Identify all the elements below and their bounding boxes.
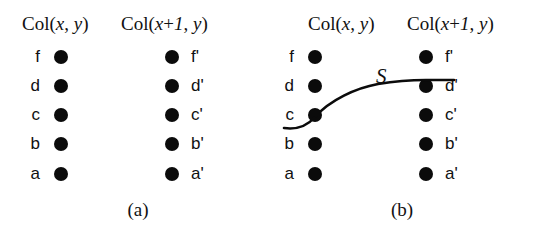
panel-b-row: d d' <box>278 73 518 99</box>
panel-a-right-label: a' <box>191 161 204 187</box>
curve-label-s: S <box>376 66 387 87</box>
panel-a-right-label: b' <box>191 131 204 157</box>
panel-b-row: f f' <box>278 44 518 70</box>
panel-b-row: b b' <box>278 131 518 157</box>
panel-b-right-node-dot <box>419 50 433 64</box>
panel-a-right-label: f' <box>191 44 199 70</box>
panel-a-header-col-x1-y: Col(x+1, y) <box>121 12 208 36</box>
panel-b-right-node-dot <box>419 79 433 93</box>
panel-a-left-node-dot <box>54 167 68 181</box>
panel-a-left-label: f <box>24 44 40 70</box>
panel-a-header-col-x-y: Col(x, y) <box>22 12 88 36</box>
panel-b-left-label: b <box>278 131 294 157</box>
panel-b-right-label: c' <box>445 102 457 128</box>
panel-a-row: b b' <box>18 131 258 157</box>
panel-b-left-label: f <box>278 44 294 70</box>
panel-b-caption: (b) <box>282 198 522 222</box>
panel-b-right-label: d' <box>445 73 458 99</box>
panel-b-row: c c' <box>278 102 518 128</box>
panel-a-right-node-dot <box>165 167 179 181</box>
panel-a-row: c c' <box>18 102 258 128</box>
panel-b-left-label: c <box>278 102 294 128</box>
panel-a-node-rows: f f' d d' c c' b b' <box>18 44 258 194</box>
panel-b: Col(x, y) Col(x+1, y) f f' d d' c c' <box>278 0 518 234</box>
panel-b-right-label: a' <box>445 161 458 187</box>
panel-a-left-node-dot <box>54 137 68 151</box>
panel-b-right-node-dot <box>419 167 433 181</box>
panel-b-row: a a' <box>278 161 518 187</box>
panel-a: Col(x, y) Col(x+1, y) f f' d d' c c' <box>18 0 258 234</box>
panel-b-right-node-dot <box>419 137 433 151</box>
panel-b-left-node-dot <box>308 108 322 122</box>
panel-b-right-node-dot <box>419 108 433 122</box>
panel-b-header-col-x1-y: Col(x+1, y) <box>407 12 494 36</box>
panel-b-left-node-dot <box>308 50 322 64</box>
panel-b-node-rows: f f' d d' c c' b b' <box>278 44 518 194</box>
panel-a-right-node-dot <box>165 79 179 93</box>
panel-b-left-node-dot <box>308 137 322 151</box>
panel-a-left-label: a <box>24 161 40 187</box>
panel-a-left-node-dot <box>54 108 68 122</box>
panel-b-left-node-dot <box>308 79 322 93</box>
panel-b-column-headers: Col(x, y) Col(x+1, y) <box>278 12 518 38</box>
panel-a-left-label: d <box>24 73 40 99</box>
panel-a-row: a a' <box>18 161 258 187</box>
panel-b-header-col-x-y: Col(x, y) <box>308 12 374 36</box>
panel-a-right-label: d' <box>191 73 204 99</box>
panel-b-left-node-dot <box>308 167 322 181</box>
panel-a-right-node-dot <box>165 137 179 151</box>
panel-b-left-label: a <box>278 161 294 187</box>
panel-a-row: f f' <box>18 44 258 70</box>
panel-a-row: d d' <box>18 73 258 99</box>
panel-a-right-node-dot <box>165 50 179 64</box>
panel-a-left-label: c <box>24 102 40 128</box>
panel-b-right-label: b' <box>445 131 458 157</box>
panel-a-left-label: b <box>24 131 40 157</box>
panel-a-right-node-dot <box>165 108 179 122</box>
panel-b-right-label: f' <box>445 44 453 70</box>
figure-container: Col(x, y) Col(x+1, y) f f' d d' c c' <box>0 0 535 234</box>
panel-b-left-label: d <box>278 73 294 99</box>
panel-a-right-label: c' <box>191 102 203 128</box>
panel-a-left-node-dot <box>54 79 68 93</box>
panel-a-column-headers: Col(x, y) Col(x+1, y) <box>18 12 258 38</box>
panel-a-left-node-dot <box>54 50 68 64</box>
panel-a-caption: (a) <box>18 198 258 222</box>
